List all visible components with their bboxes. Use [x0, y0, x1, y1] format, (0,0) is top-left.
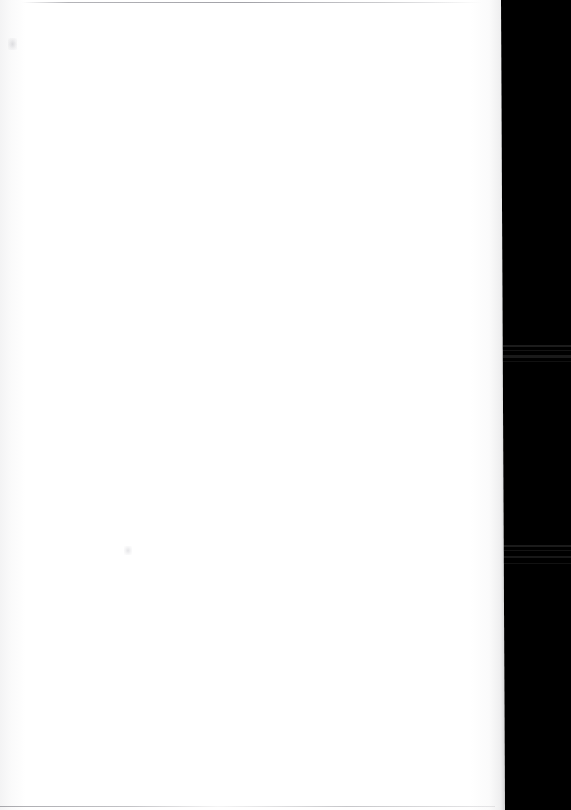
void-streak-artifact	[503, 545, 571, 547]
void-streak-artifact	[503, 350, 571, 351]
void-streak-artifact	[503, 361, 571, 362]
void-streak-artifact	[503, 550, 571, 551]
left-margin-tint-artifact	[0, 0, 26, 810]
void-streak-artifact	[503, 563, 571, 564]
paper-sheet	[0, 0, 571, 810]
void-streak-artifact	[503, 345, 571, 347]
void-streak-artifact	[503, 355, 571, 358]
bottom-scan-line-artifact	[0, 806, 495, 807]
void-streak-artifact	[503, 556, 571, 558]
right-edge-shadow-artifact	[470, 0, 505, 810]
scanned-page-canvas	[0, 0, 571, 810]
upper-left-smudge-artifact	[8, 38, 17, 50]
page-text-block	[52, 70, 452, 730]
top-scan-line-artifact	[22, 2, 482, 3]
